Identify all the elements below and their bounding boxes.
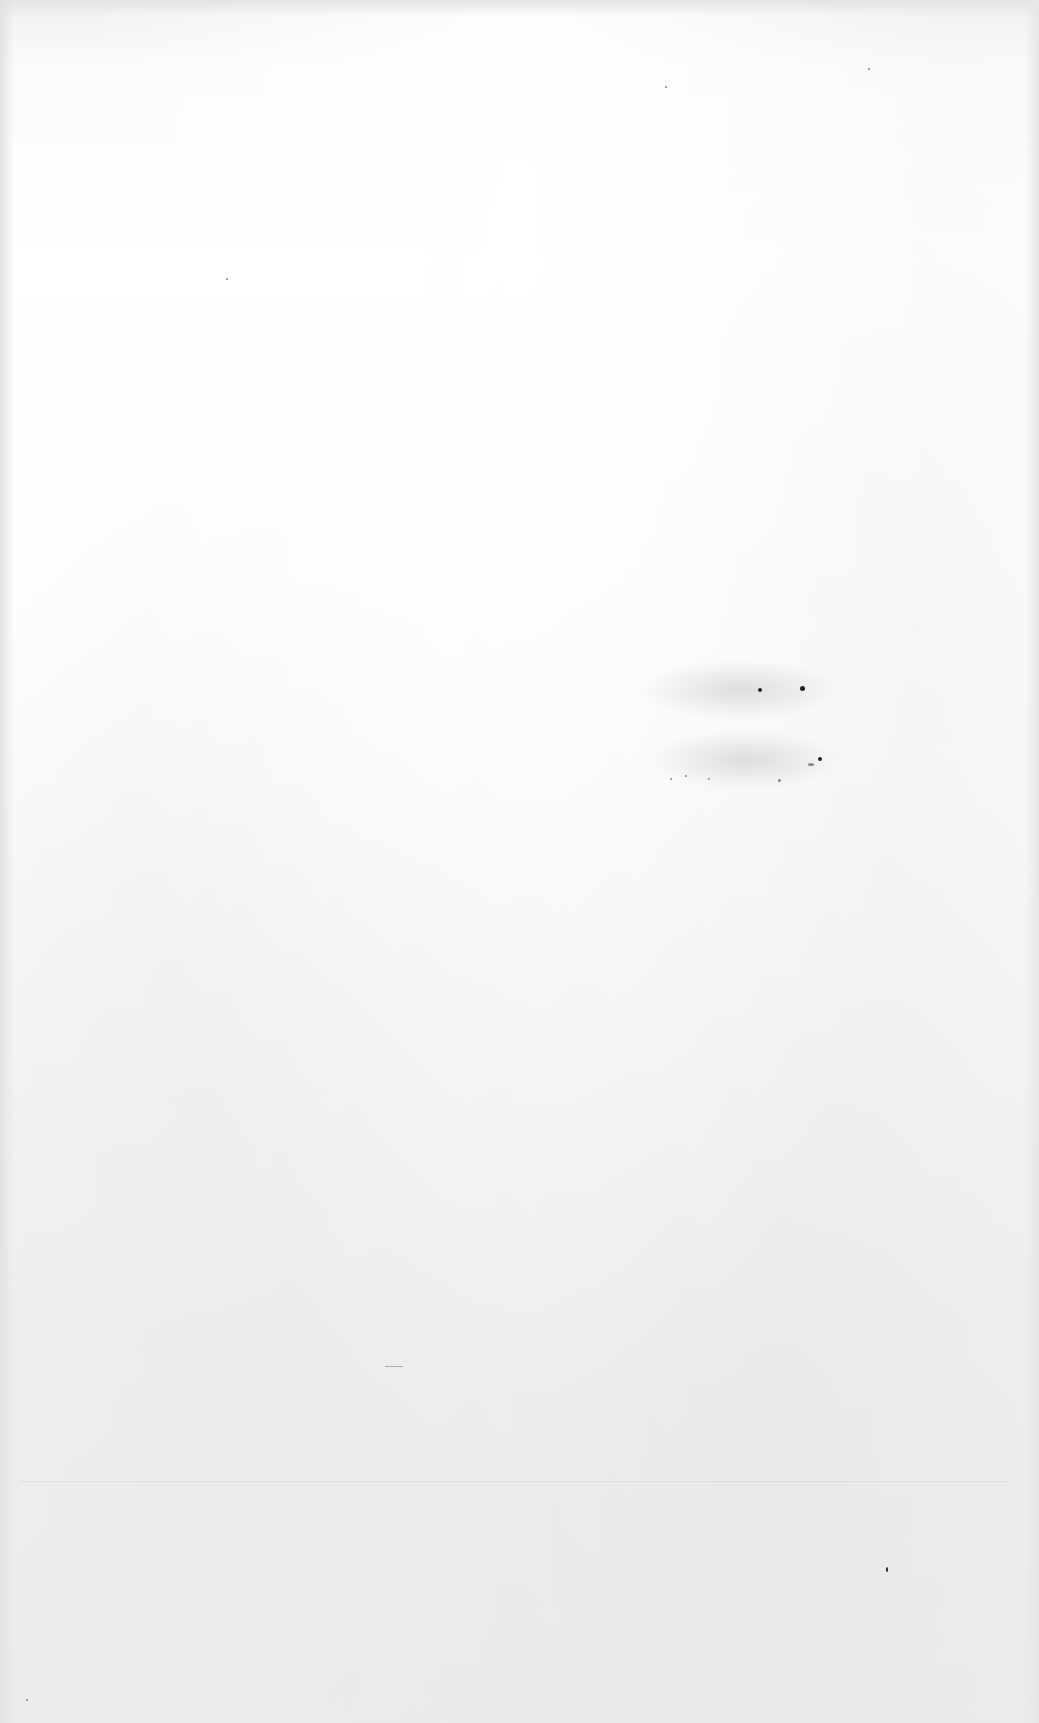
ink-speck — [708, 778, 710, 780]
paper-crease — [20, 1481, 1009, 1482]
ink-speck — [685, 775, 687, 777]
ink-speck — [886, 1567, 888, 1572]
ink-speck — [818, 757, 822, 761]
ink-speck — [758, 688, 762, 692]
scan-edge-right — [1025, 0, 1039, 1723]
scan-mark — [385, 1366, 403, 1367]
ink-speck — [778, 779, 781, 782]
ink-speck — [226, 278, 228, 280]
ink-speck — [800, 686, 805, 691]
ink-speck — [665, 86, 667, 88]
ink-speck — [670, 778, 672, 780]
ink-speck — [868, 68, 870, 70]
scan-smudge — [640, 660, 840, 720]
scan-smudge — [650, 730, 840, 790]
blank-scanned-page — [0, 0, 1039, 1723]
ink-speck — [808, 763, 814, 766]
ink-speck — [26, 1699, 28, 1701]
scan-edge-left — [0, 0, 14, 1723]
scan-edge-top — [0, 0, 1039, 16]
